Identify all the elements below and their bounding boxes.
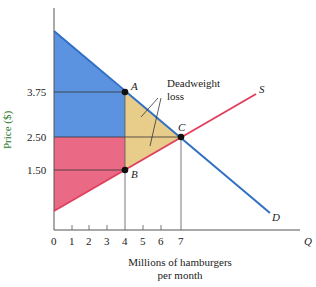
point-a <box>122 89 129 96</box>
deadweight-loss-chart: A B C S D Deadweight loss 3.75 2.50 1.50… <box>0 0 316 287</box>
y-axis-label: Price ($) <box>1 110 14 149</box>
dwl-label-line2: loss <box>167 90 184 102</box>
point-c <box>178 134 185 141</box>
x-axis-end-label: Q <box>304 235 312 247</box>
point-b <box>122 167 129 174</box>
label-s: S <box>259 83 265 95</box>
dwl-label-line1: Deadweight <box>167 77 220 89</box>
x-tick-0: 0 <box>51 235 57 247</box>
x-axis-label-line2: per month <box>158 269 203 281</box>
x-tick-1: 1 <box>69 235 75 247</box>
producer-surplus-region <box>54 137 125 211</box>
y-tick-2-50: 2.50 <box>27 131 47 143</box>
y-tick-1-50: 1.50 <box>27 164 47 176</box>
label-b: B <box>131 168 138 180</box>
x-ticks <box>72 225 161 230</box>
x-tick-3: 3 <box>104 235 110 247</box>
label-a: A <box>130 80 138 92</box>
x-tick-6: 6 <box>158 235 164 247</box>
consumer-surplus-region <box>54 31 125 137</box>
x-tick-4: 4 <box>122 235 128 247</box>
x-tick-5: 5 <box>140 235 146 247</box>
x-tick-7: 7 <box>178 235 184 247</box>
x-axis-label-line1: Millions of hamburgers <box>128 256 232 268</box>
x-tick-2: 2 <box>86 235 92 247</box>
y-tick-3-75: 3.75 <box>27 86 47 98</box>
label-d: D <box>271 211 280 223</box>
label-c: C <box>178 121 186 133</box>
